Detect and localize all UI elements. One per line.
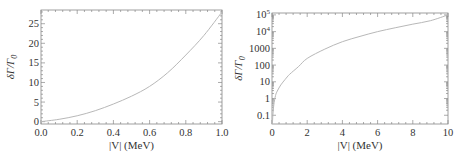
plot-frame bbox=[41, 10, 222, 124]
y-tick-label: 10 bbox=[29, 77, 40, 88]
x-tick-label: 2 bbox=[305, 127, 310, 138]
x-tick-label: 0.0 bbox=[34, 127, 47, 138]
x-axis-label: |V| (MeV) bbox=[337, 139, 382, 152]
x-axis-label: |V| (MeV) bbox=[109, 139, 154, 152]
y-tick-label: 105 bbox=[256, 8, 271, 20]
x-tick-label: 4 bbox=[340, 127, 346, 138]
y-tick-label: 15 bbox=[29, 57, 40, 68]
x-tick-label: 0.2 bbox=[71, 127, 84, 138]
y-tick-label: 1000 bbox=[249, 43, 270, 54]
y-tick-label: 100 bbox=[254, 60, 270, 71]
y-axis-label: δΓ/Γ0 bbox=[232, 56, 247, 81]
y-axis-label: δΓ/Γ0 bbox=[4, 55, 19, 80]
data-curve bbox=[272, 15, 448, 124]
y-tick-label: 0.1 bbox=[257, 110, 270, 121]
chart-linear: 0.00.20.40.60.81.00510152025|V| (MeV)δΓ/… bbox=[0, 0, 232, 160]
x-tick-label: 8 bbox=[410, 127, 415, 138]
x-tick-label: 10 bbox=[443, 127, 454, 138]
y-tick-label: 20 bbox=[29, 38, 40, 49]
x-tick-label: 0.6 bbox=[143, 127, 156, 138]
x-tick-label: 0 bbox=[269, 127, 274, 138]
y-tick-label: 104 bbox=[256, 25, 271, 37]
y-tick-label: 5 bbox=[34, 97, 39, 108]
y-tick-label: 25 bbox=[29, 18, 40, 29]
chart-log-panel: 02468100.11101001000104105|V| (MeV)δΓ/Γ0 bbox=[232, 0, 465, 160]
y-tick-label: 0 bbox=[34, 116, 39, 127]
x-tick-label: 0.4 bbox=[107, 127, 121, 138]
data-curve bbox=[41, 12, 222, 122]
x-tick-label: 1.0 bbox=[215, 127, 228, 138]
chart-linear-panel: 0.00.20.40.60.81.00510152025|V| (MeV)δΓ/… bbox=[0, 0, 232, 160]
chart-log: 02468100.11101001000104105|V| (MeV)δΓ/Γ0 bbox=[232, 0, 465, 160]
y-tick-label: 1 bbox=[265, 93, 270, 104]
x-tick-label: 6 bbox=[375, 127, 380, 138]
y-tick-label: 10 bbox=[260, 76, 271, 87]
x-tick-label: 0.8 bbox=[179, 127, 192, 138]
plot-frame bbox=[272, 13, 448, 124]
